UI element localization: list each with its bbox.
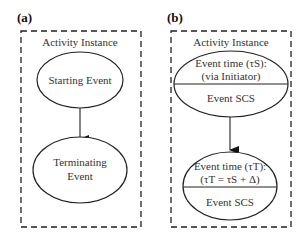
event-scs: Event SCS — [206, 196, 254, 208]
end-event-node: Event time (τT): (τT = τS + Δ) Event SCS — [183, 152, 277, 220]
panel-label: (a) — [17, 10, 32, 25]
event-time-line-2: (τT = τS + Δ) — [200, 173, 260, 186]
panel-b: (b) Activity Instance Event time (τS): (… — [167, 10, 291, 227]
event-time-line-2: (via Initiator) — [202, 70, 261, 83]
panel-label: (b) — [167, 10, 183, 25]
panel-a: (a) Activity Instance Starting Event Ter… — [17, 10, 141, 227]
terminating-event-node: Terminating Event — [33, 137, 127, 203]
start-event-node: Event time (τS): (via Initiator) Event S… — [174, 51, 288, 117]
node-text-line-1: Terminating — [53, 156, 107, 168]
event-time-line-1: Event time (τS): — [195, 57, 267, 70]
diagram: (a) Activity Instance Starting Event Ter… — [0, 0, 303, 236]
node-text: Starting Event — [48, 74, 111, 86]
event-scs: Event SCS — [207, 92, 255, 104]
starting-event-node: Starting Event — [37, 52, 123, 108]
event-time-line-1: Event time (τT): — [194, 160, 266, 173]
container-title: Activity Instance — [193, 36, 269, 48]
node-text-line-2: Event — [67, 170, 93, 182]
container-title: Activity Instance — [42, 36, 118, 48]
